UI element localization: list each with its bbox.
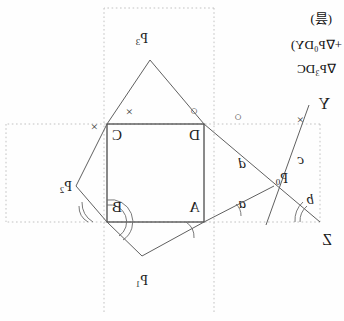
point-label-P0-text: P [280,171,288,186]
angle-mark-circle-2: ○ [190,104,198,117]
point-label-P2-text: P [64,179,72,194]
figure-title-marker: (昙) [310,10,332,28]
side-label-b: b [307,192,315,207]
point-label-P0-sub: 0 [276,177,281,187]
caption-line-1: +∇P₀DY) [291,36,342,54]
vertex-label-A: A [189,200,200,215]
dotted-guides [6,8,320,313]
vertex-label-C: C [112,128,122,143]
mirrored-figure-group: D C A B P0 P1 P2 P3 Y Z d a c b × × × ○ … [0,0,344,321]
side-label-c: c [297,152,304,167]
point-label-P0: P0 [276,172,288,187]
point-label-P3-sub: 3 [136,37,141,47]
caption-line-2: ∇P₃DC [297,60,336,78]
angle-mark-cross-2: × [126,105,133,118]
figure-canvas: D C A B P0 P1 P2 P3 Y Z d a c b × × × ○ … [0,0,344,321]
axis-label-Y: Y [318,96,330,112]
angle-mark-circle-1: ○ [234,110,242,123]
axis-label-Z: Z [322,232,332,248]
angle-mark-cross-3: × [91,120,98,133]
line-P2-to-B [76,186,107,222]
point-label-P1-text: P [140,273,148,288]
point-label-P2-sub: 2 [60,185,65,195]
side-label-a: a [239,196,247,211]
side-label-d: d [239,156,247,171]
angle-mark-cross-1: × [297,113,304,126]
vertex-label-B: B [112,200,122,215]
construction-lines [76,60,320,256]
point-label-P3-text: P [140,31,148,46]
line-Z-to-D [204,124,320,222]
point-label-P1: P1 [136,274,148,289]
point-label-P2: P2 [60,180,72,195]
point-label-P1-sub: 1 [136,279,141,289]
line-P1-to-A [142,222,204,256]
point-label-P3: P3 [136,32,148,47]
arc-angle-P2-inner [79,206,88,222]
vertex-label-D: D [189,128,200,143]
